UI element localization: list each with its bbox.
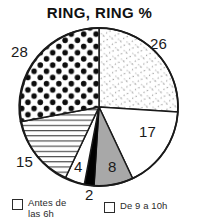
pie-label-28: 28 (11, 44, 28, 59)
legend-swatch-icon (12, 199, 23, 210)
pie-label-26: 26 (150, 36, 167, 51)
legend-swatch-icon (104, 202, 115, 213)
legend-item-antes-de-las-6h[interactable]: Antes de las 6h (12, 198, 66, 219)
chart-legend: Antes de las 6h De 9 a 10h (0, 196, 199, 221)
pie-chart-svg (0, 0, 199, 221)
pie-chart: 26 17 8 2 4 15 28 (0, 0, 199, 221)
pie-label-4: 4 (74, 159, 83, 174)
legend-item-de-9-a-10h[interactable]: De 9 a 10h (104, 201, 167, 213)
legend-item-label: De 9 a 10h (120, 201, 167, 212)
pie-label-8: 8 (108, 159, 117, 174)
legend-item-label: Antes de las 6h (28, 198, 66, 219)
pie-chart-page: RING, RING % (0, 0, 199, 221)
pie-label-15: 15 (16, 154, 33, 169)
pie-slice-28[interactable] (19, 28, 99, 122)
pie-label-17: 17 (139, 124, 156, 139)
